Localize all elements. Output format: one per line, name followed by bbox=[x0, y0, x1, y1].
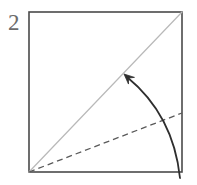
step-number-label: 2 bbox=[8, 10, 20, 35]
figure-root: 2 bbox=[0, 0, 197, 185]
fold-step-diagram: 2 bbox=[0, 0, 197, 185]
